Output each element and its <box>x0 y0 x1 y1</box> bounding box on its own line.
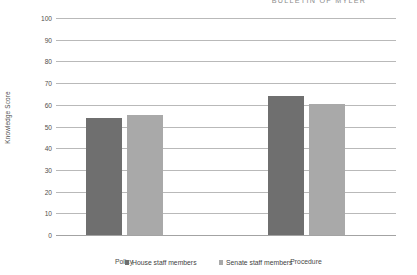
y-tick-label: 60 <box>26 101 52 108</box>
legend-item-senate[interactable]: Senate staff members <box>219 259 293 266</box>
bar-chart-figure: Knowledge Score 1009080706050403020100 P… <box>0 0 417 275</box>
y-axis-tick-labels: 1009080706050403020100 <box>22 18 52 235</box>
axis-baseline <box>56 235 396 236</box>
y-axis-title: Knowledge Score <box>0 0 14 235</box>
y-tick-label: 40 <box>26 145 52 152</box>
gridline <box>56 83 396 84</box>
y-tick-label: 100 <box>26 15 52 22</box>
y-tick-label: 30 <box>26 166 52 173</box>
chart-legend: House staff membersSenate staff members <box>0 259 417 266</box>
y-tick-label: 90 <box>26 36 52 43</box>
legend-swatch-icon <box>125 260 130 265</box>
y-tick-label: 10 <box>26 210 52 217</box>
plot-area: PolicyProcedure <box>56 18 396 235</box>
bar-procedure-house[interactable] <box>268 96 304 235</box>
legend-label: Senate staff members <box>226 259 292 266</box>
legend-item-house[interactable]: House staff members <box>125 259 197 266</box>
y-tick-label: 20 <box>26 188 52 195</box>
bar-policy-senate[interactable] <box>127 115 163 235</box>
y-tick-label: 80 <box>26 58 52 65</box>
y-axis-title-label: Knowledge Score <box>4 91 11 143</box>
bar-procedure-senate[interactable] <box>309 104 345 235</box>
gridline <box>56 40 396 41</box>
gridline <box>56 18 396 19</box>
gridline <box>56 105 396 106</box>
y-tick-label: 0 <box>26 232 52 239</box>
legend-label: House staff members <box>132 259 196 266</box>
bar-policy-house[interactable] <box>86 118 122 235</box>
gridline <box>56 61 396 62</box>
y-tick-label: 50 <box>26 123 52 130</box>
legend-swatch-icon <box>219 260 224 265</box>
y-tick-label: 70 <box>26 80 52 87</box>
